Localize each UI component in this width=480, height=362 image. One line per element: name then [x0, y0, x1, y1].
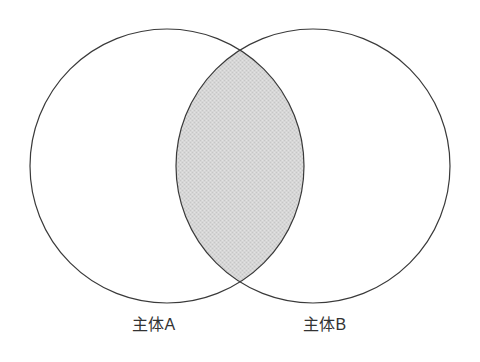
venn-diagram: 主体A 主体B: [0, 0, 480, 362]
intersection-lens: [176, 29, 450, 303]
set-b-label: 主体B: [303, 316, 346, 334]
set-a-label: 主体A: [132, 316, 175, 334]
venn-diagram-canvas: [0, 0, 480, 362]
